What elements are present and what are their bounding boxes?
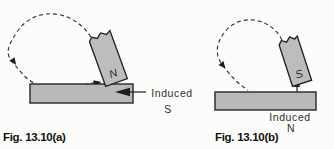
figure-a: N Induced S Fig. 13.10(a) [3, 14, 193, 143]
magnet-body [278, 35, 312, 87]
loop-direction-arrow-icon [219, 61, 228, 70]
induced-pole-label: N [287, 122, 295, 134]
figure-13-10-diagram: N Induced S Fig. 13.10(a) [0, 0, 334, 149]
steel-bar [30, 84, 133, 103]
figure-b: S Induced N Fig. 13.10(b) [215, 20, 316, 143]
figure-a-caption: Fig. 13.10(a) [3, 131, 66, 143]
stroke-loop-path [217, 20, 282, 90]
loop-direction-arrow-icon [9, 57, 18, 66]
steel-bar [215, 92, 316, 110]
induced-pole-label: S [164, 103, 172, 115]
magnet: S [278, 35, 312, 87]
figure-b-caption: Fig. 13.10(b) [215, 131, 279, 143]
stroke-loop-path [8, 14, 96, 87]
magnet-body [88, 30, 127, 87]
induced-label: Induced [151, 87, 193, 99]
magnet: N [88, 30, 127, 87]
diagram-svg: N Induced S Fig. 13.10(a) [0, 0, 334, 149]
